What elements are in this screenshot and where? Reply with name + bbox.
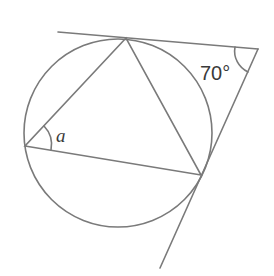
diagram-canvas: 70° a xyxy=(0,0,274,276)
circle xyxy=(24,39,212,227)
angle-arc-70 xyxy=(235,47,248,72)
angle-label-70: 70° xyxy=(200,62,230,84)
angle-label-a: a xyxy=(56,125,66,146)
angle-arc-a xyxy=(44,126,52,150)
geometry-figure: 70° a xyxy=(0,0,274,276)
tangent-line-top xyxy=(58,32,258,49)
